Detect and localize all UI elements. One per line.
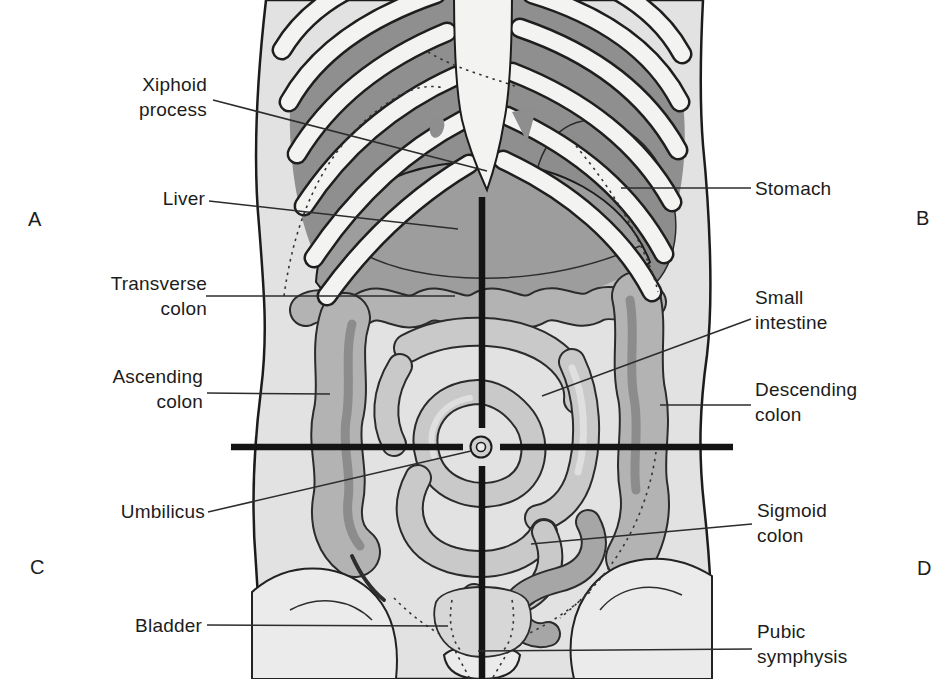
label-small-intestine: Small intestine: [755, 285, 840, 335]
anatomy-figure: Xiphoid process Liver Transverse colon A…: [0, 0, 944, 679]
quadrant-letter-c: C: [30, 555, 44, 579]
label-liver: Liver: [115, 186, 205, 211]
label-transverse-colon: Transverse colon: [97, 271, 207, 321]
label-bladder: Bladder: [112, 613, 202, 638]
descending-colon-shape: [630, 296, 645, 558]
label-umbilicus: Umbilicus: [95, 499, 205, 524]
label-sigmoid-colon: Sigmoid colon: [757, 498, 842, 548]
quadrant-letter-b: B: [916, 206, 929, 230]
label-descending-colon: Descending colon: [755, 377, 865, 427]
label-pubic-symphysis: Pubic symphysis: [757, 619, 862, 669]
quadrant-letter-d: D: [917, 556, 931, 580]
label-stomach: Stomach: [755, 176, 865, 201]
leader-ascending-colon: [207, 393, 330, 394]
label-xiphoid-process: Xiphoid process: [97, 72, 207, 122]
leader-bladder: [207, 625, 448, 626]
quadrant-letter-a: A: [28, 207, 41, 231]
label-ascending-colon: Ascending colon: [103, 364, 203, 414]
umbilicus-marker: [471, 437, 492, 458]
